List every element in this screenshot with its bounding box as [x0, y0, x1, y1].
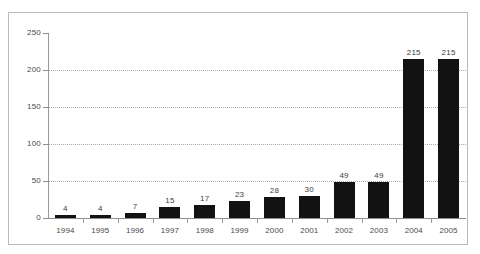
- x-axis-category-label: 2005: [432, 226, 466, 235]
- x-axis-tick-mark: [327, 219, 328, 223]
- bar-value-label: 215: [398, 48, 430, 57]
- bar: [299, 196, 320, 218]
- x-axis-category-label: 1994: [48, 226, 82, 235]
- x-axis-tick-mark: [396, 219, 397, 223]
- bar-value-label: 49: [328, 171, 360, 180]
- y-axis-tick-label: 100: [7, 139, 41, 148]
- y-axis-tick-mark: [43, 70, 49, 71]
- bar-value-label: 215: [433, 48, 465, 57]
- x-axis-tick-mark: [431, 219, 432, 223]
- bar-value-label: 30: [293, 185, 325, 194]
- x-axis-category-label: 1995: [83, 226, 117, 235]
- x-axis-tick-mark: [362, 219, 363, 223]
- bar: [334, 182, 355, 218]
- y-axis-tick-label: 200: [7, 65, 41, 74]
- bar-value-label: 23: [224, 190, 256, 199]
- x-axis-tick-mark: [118, 219, 119, 223]
- bar-value-label: 17: [189, 194, 221, 203]
- x-axis-category-label: 2000: [257, 226, 291, 235]
- bar: [194, 205, 215, 218]
- bar-value-label: 7: [119, 202, 151, 211]
- bar: [403, 59, 424, 218]
- bar: [368, 182, 389, 218]
- bar-value-label: 4: [49, 204, 81, 213]
- x-axis-tick-mark: [153, 219, 154, 223]
- y-axis-tick-mark: [43, 33, 49, 34]
- y-axis-tick-labels: 050100150200250: [0, 0, 41, 254]
- bar: [159, 207, 180, 218]
- y-axis-tick-mark: [43, 107, 49, 108]
- bar-chart-figure: 050100150200250 419944199571996151997171…: [0, 0, 480, 254]
- x-axis-category-label: 2004: [397, 226, 431, 235]
- x-axis-category-label: 2001: [292, 226, 326, 235]
- bar: [90, 215, 111, 218]
- x-axis-tick-mark: [292, 219, 293, 223]
- y-axis-tick-mark: [43, 218, 49, 219]
- bar: [55, 215, 76, 218]
- x-axis-tick-mark: [83, 219, 84, 223]
- bar: [264, 197, 285, 218]
- bar: [125, 213, 146, 218]
- y-axis-tick-label: 150: [7, 102, 41, 111]
- y-axis-tick-label: 250: [7, 28, 41, 37]
- y-axis-tick-label: 0: [7, 213, 41, 222]
- bar: [438, 59, 459, 218]
- bar-value-label: 49: [363, 171, 395, 180]
- bar-value-label: 28: [258, 186, 290, 195]
- y-axis-tick-mark: [43, 181, 49, 182]
- x-axis-category-label: 1997: [153, 226, 187, 235]
- bar-value-label: 15: [154, 196, 186, 205]
- x-axis-category-label: 2003: [362, 226, 396, 235]
- bar: [229, 201, 250, 218]
- x-axis-tick-mark: [222, 219, 223, 223]
- x-axis-category-label: 1996: [118, 226, 152, 235]
- x-axis-tick-mark: [257, 219, 258, 223]
- x-axis-category-label: 2002: [327, 226, 361, 235]
- x-axis-category-label: 1998: [188, 226, 222, 235]
- x-axis-tick-mark: [187, 219, 188, 223]
- x-axis-category-label: 1999: [223, 226, 257, 235]
- y-axis-tick-label: 50: [7, 176, 41, 185]
- bar-value-label: 4: [84, 204, 116, 213]
- y-axis-tick-mark: [43, 144, 49, 145]
